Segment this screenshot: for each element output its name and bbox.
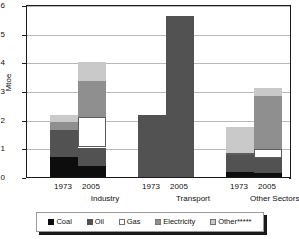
legend-item[interactable]: Coal bbox=[48, 218, 71, 226]
x-tick-year: 2005 bbox=[74, 182, 108, 191]
gridline-5 bbox=[27, 35, 290, 36]
bar-segment-oil bbox=[50, 130, 78, 157]
bar-segment-oil bbox=[138, 115, 166, 177]
bar-segment-oil bbox=[166, 16, 194, 177]
gridline-3 bbox=[27, 92, 290, 93]
bar-segment-other bbox=[226, 127, 254, 153]
bar bbox=[50, 115, 78, 177]
legend-item[interactable]: Electricity bbox=[155, 218, 195, 226]
bar-segment-coal bbox=[50, 157, 78, 177]
electricity-swatch bbox=[155, 219, 161, 225]
gridline-4 bbox=[27, 63, 290, 64]
bar-segment-gas bbox=[254, 149, 282, 158]
y-tick-label-0: 0 bbox=[0, 174, 5, 182]
legend-item[interactable]: Oil bbox=[87, 218, 104, 226]
bar-segment-electricity bbox=[254, 96, 282, 149]
legend-item-label: Other***** bbox=[218, 218, 251, 226]
bar bbox=[254, 88, 282, 177]
bar-segment-coal bbox=[254, 173, 282, 177]
bar-segment-electricity bbox=[78, 81, 106, 118]
oil-swatch bbox=[87, 219, 93, 225]
bar-segment-oil bbox=[226, 155, 254, 172]
y-tick-label-3: 3 bbox=[0, 88, 5, 96]
legend-item[interactable]: Gas bbox=[119, 218, 141, 226]
bar-segment-oil bbox=[78, 148, 106, 166]
bar-segment-coal bbox=[78, 166, 106, 177]
gridline-6 bbox=[27, 6, 290, 7]
bar-segment-other bbox=[50, 115, 78, 121]
bar-segment-oil bbox=[254, 158, 282, 174]
legend-item[interactable]: Other***** bbox=[210, 218, 251, 226]
bar bbox=[226, 127, 254, 177]
y-tick-label-5: 5 bbox=[0, 31, 5, 39]
legend: CoalOilGasElectricityOther***** bbox=[36, 212, 264, 232]
stacked-bar-chart: Mtoe 0123456 19732005Industry19732005Tra… bbox=[0, 0, 299, 239]
legend-item-label: Coal bbox=[56, 218, 71, 226]
y-tick-label-6: 6 bbox=[0, 2, 5, 10]
legend-item-label: Electricity bbox=[163, 218, 195, 226]
bar bbox=[138, 115, 166, 177]
bar-segment-electricity bbox=[50, 122, 78, 131]
legend-item-label: Gas bbox=[127, 218, 141, 226]
legend-item-label: Oil bbox=[95, 218, 104, 226]
y-tick-label-2: 2 bbox=[0, 117, 5, 125]
y-tick-mark-0 bbox=[22, 178, 26, 179]
y-tick-label-4: 4 bbox=[0, 59, 5, 67]
bar-segment-gas bbox=[78, 117, 106, 147]
y-tick-label-1: 1 bbox=[0, 145, 5, 153]
bar-segment-coal bbox=[226, 172, 254, 177]
bar bbox=[78, 62, 106, 177]
x-group-label: Other Sectors**** bbox=[221, 194, 299, 203]
bar bbox=[166, 16, 194, 177]
bar-segment-other bbox=[78, 62, 106, 80]
x-tick-year: 2005 bbox=[250, 182, 284, 191]
bar-segment-other bbox=[254, 88, 282, 96]
plot-area bbox=[26, 6, 290, 178]
x-tick-year: 2005 bbox=[162, 182, 196, 191]
other-swatch bbox=[210, 219, 216, 225]
coal-swatch bbox=[48, 219, 54, 225]
gas-swatch bbox=[119, 219, 125, 225]
